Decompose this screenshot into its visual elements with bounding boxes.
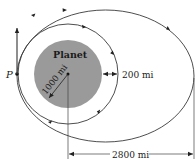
arrow-icon xyxy=(82,25,86,29)
orbit-diagram: P Planet 1000 mi 200 mi 2800 mi xyxy=(0,0,196,164)
planet-label: Planet xyxy=(53,49,88,60)
arrow-icon xyxy=(63,8,67,12)
arrow-icon xyxy=(97,110,100,114)
point-p-label: P xyxy=(5,69,13,80)
altitude-label: 200 mi xyxy=(122,70,154,80)
apoapsis-label: 2800 mi xyxy=(112,150,149,160)
arrow-icon xyxy=(31,13,35,17)
